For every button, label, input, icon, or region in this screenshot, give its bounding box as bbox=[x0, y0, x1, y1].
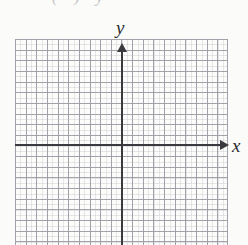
cropped-header-text: ( ) y bbox=[0, 0, 248, 13]
y-axis-arrow-icon bbox=[117, 43, 127, 52]
coordinate-plane-figure: ( ) y y x bbox=[0, 0, 248, 245]
y-axis bbox=[121, 50, 123, 245]
cropped-header-text-label: ( ) y bbox=[52, 0, 109, 3]
x-axis-arrow-icon bbox=[220, 140, 229, 150]
x-axis bbox=[15, 144, 224, 146]
x-axis-label: x bbox=[232, 136, 240, 155]
y-axis-label: y bbox=[116, 18, 124, 37]
